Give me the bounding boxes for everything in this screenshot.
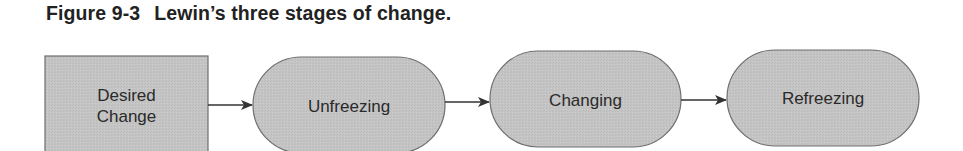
desired-change-box xyxy=(45,56,208,151)
unfreezing-pill xyxy=(253,57,445,151)
changing-pill xyxy=(490,51,681,147)
change-stages-diagram xyxy=(0,0,963,151)
refreezing-pill xyxy=(727,50,919,146)
